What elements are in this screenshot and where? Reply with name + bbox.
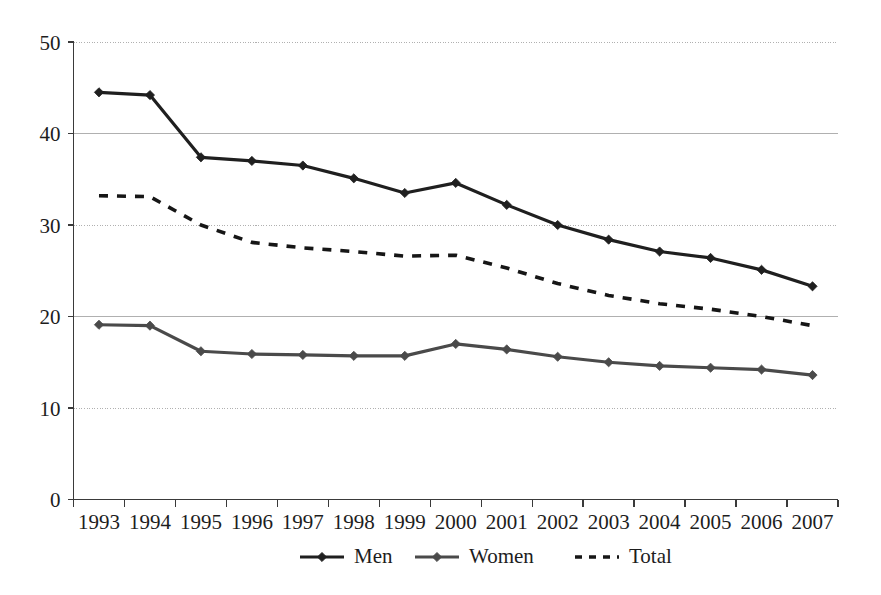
y-tick-label: 50 xyxy=(40,31,61,55)
line-chart: 01020304050 1993199419951996199719981999… xyxy=(0,0,881,595)
x-tick-label: 1996 xyxy=(231,510,273,534)
x-tick-label: 1995 xyxy=(180,510,222,534)
y-tick-label: 10 xyxy=(40,397,61,421)
chart-canvas: 01020304050 1993199419951996199719981999… xyxy=(0,0,881,595)
y-tick-label: 40 xyxy=(40,122,61,146)
x-tick-label: 1993 xyxy=(78,510,120,534)
x-tick-label: 1994 xyxy=(129,510,172,534)
y-tick-label: 0 xyxy=(50,488,61,512)
x-tick-label: 2002 xyxy=(537,510,579,534)
x-tick-label: 1998 xyxy=(333,510,375,534)
x-tick-label: 2006 xyxy=(741,510,783,534)
x-tick-label: 2001 xyxy=(486,510,528,534)
x-tick-label: 2005 xyxy=(690,510,732,534)
x-tick-label: 1997 xyxy=(282,510,324,534)
x-tick-label: 1999 xyxy=(384,510,426,534)
chart-background xyxy=(0,0,881,595)
x-axis-tick-labels: 1993199419951996199719981999200020012002… xyxy=(78,510,834,534)
x-tick-label: 2003 xyxy=(588,510,630,534)
legend-label: Women xyxy=(469,544,534,568)
x-tick-label: 2004 xyxy=(639,510,682,534)
legend-label: Total xyxy=(629,544,672,568)
x-tick-label: 2007 xyxy=(792,510,834,534)
y-tick-label: 30 xyxy=(40,214,61,238)
y-tick-label: 20 xyxy=(40,305,61,329)
legend-label: Men xyxy=(354,544,393,568)
x-tick-label: 2000 xyxy=(435,510,477,534)
